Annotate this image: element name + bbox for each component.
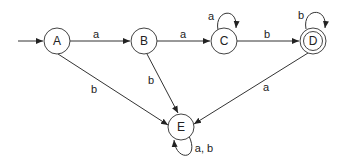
state-label-a: A <box>53 34 61 48</box>
edge-d-loop <box>306 12 326 29</box>
edge-label-c-loop: a <box>208 10 215 22</box>
state-a: A <box>44 28 70 54</box>
edge-d-e <box>194 53 308 124</box>
edge-label-c-d: b <box>264 28 270 40</box>
state-label-d: D <box>309 34 318 48</box>
automaton-diagram: a a a b b b b a a, b A B C D E <box>0 0 344 163</box>
edge-a-e <box>58 54 168 125</box>
edge-label-e-loop: a, b <box>195 142 213 154</box>
edge-label-d-e: a <box>263 81 270 93</box>
state-c: C <box>211 28 237 54</box>
state-e: E <box>168 114 194 140</box>
edge-label-b-e: b <box>148 74 154 86</box>
edge-c-loop <box>218 13 237 30</box>
state-b: B <box>131 28 157 54</box>
edge-label-a-b: a <box>93 28 100 40</box>
state-label-b: B <box>140 34 148 48</box>
state-label-c: C <box>220 34 229 48</box>
state-d-accepting: D <box>300 28 326 54</box>
edge-label-a-e: b <box>91 83 97 95</box>
edge-label-d-loop: b <box>298 9 304 21</box>
state-label-e: E <box>177 120 185 134</box>
edge-label-b-c: a <box>180 28 187 40</box>
